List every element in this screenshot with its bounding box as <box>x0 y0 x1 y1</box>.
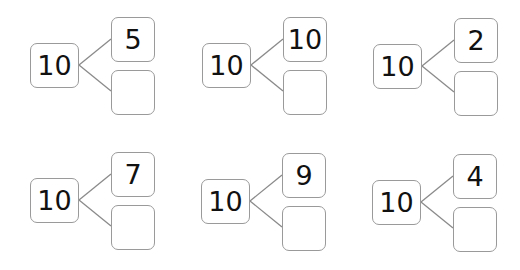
part-top-box: 7 <box>111 152 155 197</box>
number-bond-3: 10 2 <box>373 18 520 128</box>
part-bottom-answer-box[interactable] <box>111 205 155 250</box>
part-top-box: 10 <box>283 17 327 62</box>
part-bottom-answer-box[interactable] <box>454 71 498 116</box>
part-top-box: 9 <box>282 153 326 198</box>
number-bond-2: 10 10 <box>202 17 372 127</box>
whole-box: 10 <box>373 44 422 89</box>
part-top-box: 4 <box>453 154 497 199</box>
part-top-box: 5 <box>111 17 155 62</box>
part-bottom-answer-box[interactable] <box>453 207 497 252</box>
part-top-box: 2 <box>454 18 498 63</box>
number-bond-5: 10 9 <box>201 153 371 263</box>
part-bottom-answer-box[interactable] <box>283 70 327 115</box>
whole-box: 10 <box>30 178 79 223</box>
number-bond-6: 10 4 <box>372 154 520 264</box>
whole-box: 10 <box>372 180 421 225</box>
whole-box: 10 <box>202 43 251 88</box>
part-bottom-answer-box[interactable] <box>282 206 326 251</box>
whole-box: 10 <box>30 43 79 88</box>
whole-box: 10 <box>201 179 250 224</box>
number-bond-4: 10 7 <box>30 152 200 262</box>
number-bond-1: 10 5 <box>30 17 200 127</box>
part-bottom-answer-box[interactable] <box>111 70 155 115</box>
